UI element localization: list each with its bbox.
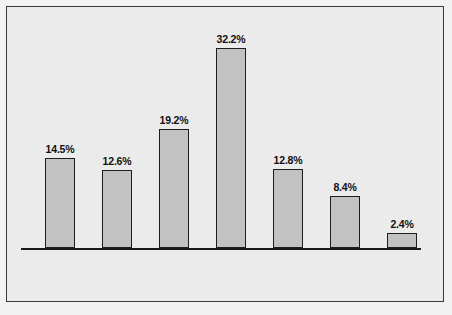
bar-value-label: 19.2%: [147, 114, 201, 126]
bar-chart-screenshot: 14.5%NorthAmerica12.6%WesternEurope19.2%…: [0, 0, 452, 315]
bar-rect[interactable]: [387, 233, 417, 248]
bar-rect[interactable]: [102, 170, 132, 248]
bar-value-label: 12.6%: [90, 155, 144, 167]
bar-value-label: 12.8%: [261, 154, 315, 166]
bar-rect[interactable]: [45, 158, 75, 248]
bar-value-label: 14.5%: [33, 143, 87, 155]
bar-rect[interactable]: [273, 169, 303, 248]
bar-rect[interactable]: [159, 129, 189, 248]
bar-rect[interactable]: [330, 196, 360, 248]
x-axis-line: [21, 248, 421, 250]
bar-value-label: 32.2%: [204, 33, 258, 45]
bar-value-label: 8.4%: [318, 181, 372, 193]
bar-value-label: 2.4%: [375, 218, 429, 230]
chart-frame: 14.5%NorthAmerica12.6%WesternEurope19.2%…: [6, 6, 444, 302]
plot-area: 14.5%NorthAmerica12.6%WesternEurope19.2%…: [7, 7, 445, 303]
bar-rect[interactable]: [216, 48, 246, 248]
